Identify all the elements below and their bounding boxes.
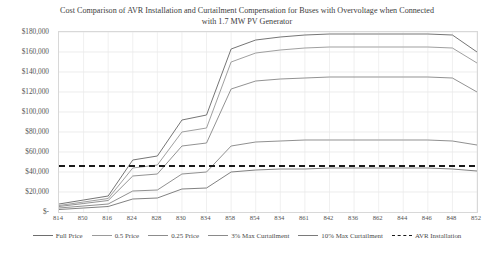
legend-label-avr-installation: AVR Installation xyxy=(415,232,461,239)
legend-label-0-5-price: 0.5 Price xyxy=(115,232,140,239)
x-axis-tick-label: 834 xyxy=(274,214,284,221)
y-axis-tick-label: $140,000 xyxy=(22,67,49,76)
x-axis-tick-label: 842 xyxy=(324,214,334,221)
legend-swatch-avr-installation xyxy=(392,235,412,236)
x-axis-tick-label: 834 xyxy=(201,214,211,221)
x-axis-tick-label: 824 xyxy=(127,214,137,221)
plot-svg xyxy=(59,32,477,212)
legend-item-0-25-price[interactable]: 0.25 Price xyxy=(148,232,199,239)
x-axis-tick-label: 836 xyxy=(348,214,358,221)
chart-legend: Full Price0.5 Price0.25 Price3% Max Curt… xyxy=(0,232,494,239)
x-axis-tick-label: 854 xyxy=(250,214,260,221)
x-axis-tick-label: 861 xyxy=(299,214,309,221)
legend-swatch-10-max-curtailment xyxy=(298,235,318,236)
y-axis-tick-label: $160,000 xyxy=(22,47,49,56)
x-axis-tick-label: 862 xyxy=(373,214,383,221)
y-axis-tick-label: $180,000 xyxy=(22,27,49,36)
x-axis-tick-label: 814 xyxy=(53,214,63,221)
legend-label-3-max-curtailment: 3% Max Curtailment xyxy=(231,232,289,239)
legend-item-10-max-curtailment[interactable]: 10% Max Curtailment xyxy=(298,232,383,239)
legend-item-avr-installation[interactable]: AVR Installation xyxy=(392,232,461,239)
series-line-3-max-curtailment xyxy=(59,140,477,208)
x-axis-tick-label: 852 xyxy=(471,214,481,221)
series-line-0-5-price xyxy=(59,47,477,206)
legend-swatch-3-max-curtailment xyxy=(208,235,228,236)
y-axis-labels: $180,000$160,000$140,000$120,000$100,000… xyxy=(0,24,54,220)
y-axis-tick-label: $100,000 xyxy=(22,107,49,116)
x-axis-tick-label: 858 xyxy=(225,214,235,221)
plot-area xyxy=(58,31,478,213)
legend-label-0-25-price: 0.25 Price xyxy=(171,232,199,239)
x-axis-tick-label: 850 xyxy=(78,214,88,221)
legend-item-0-5-price[interactable]: 0.5 Price xyxy=(92,232,140,239)
y-axis-tick-label: $60,000 xyxy=(25,147,49,156)
legend-label-full-price: Full Price xyxy=(56,232,83,239)
legend-label-10-max-curtailment: 10% Max Curtailment xyxy=(321,232,383,239)
legend-item-full-price[interactable]: Full Price xyxy=(33,232,83,239)
series-line-full-price xyxy=(59,34,477,204)
x-axis-tick-label: 830 xyxy=(176,214,186,221)
legend-item-3-max-curtailment[interactable]: 3% Max Curtailment xyxy=(208,232,289,239)
x-axis-tick-label: 844 xyxy=(397,214,407,221)
series-line-10-max-curtailment xyxy=(59,168,477,210)
legend-swatch-full-price xyxy=(33,235,53,236)
x-axis-tick-label: 816 xyxy=(102,214,112,221)
x-axis-labels: 8148508168248288308348588548348618428368… xyxy=(58,214,478,228)
chart-title: Cost Comparison of AVR Installation and … xyxy=(60,6,434,27)
legend-swatch-0-25-price xyxy=(148,235,168,236)
y-axis-tick-label: $120,000 xyxy=(22,87,49,96)
y-axis-tick-label: $20,000 xyxy=(25,187,49,196)
y-axis-tick-label: $40,000 xyxy=(25,167,49,176)
x-axis-tick-label: 848 xyxy=(446,214,456,221)
x-axis-tick-label: 846 xyxy=(422,214,432,221)
chart-container: Cost Comparison of AVR Installation and … xyxy=(0,0,494,254)
y-axis-tick-label: $80,000 xyxy=(25,127,49,136)
x-axis-tick-label: 828 xyxy=(151,214,161,221)
legend-swatch-0-5-price xyxy=(92,235,112,236)
y-axis-tick-label: $- xyxy=(43,207,49,216)
